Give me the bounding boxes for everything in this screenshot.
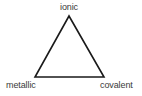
bonding-triangle-diagram: ionic metallic covalent — [0, 0, 142, 96]
vertex-label-metallic: metallic — [6, 80, 36, 90]
vertex-label-covalent: covalent — [100, 80, 133, 90]
vertex-label-ionic: ionic — [58, 2, 80, 12]
triangle-outline — [35, 16, 104, 77]
